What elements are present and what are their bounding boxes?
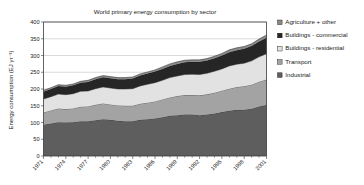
- legend-label-buildings-residential: Buildings - residential: [285, 44, 344, 51]
- legend-label-buildings-commercial: Buildings - commercial: [285, 31, 347, 38]
- legend-swatch-buildings-residential: [278, 46, 283, 51]
- y-tick-label-300: 300: [30, 53, 39, 59]
- y-tick-label-50: 50: [33, 136, 39, 142]
- y-tick-label-100: 100: [30, 120, 39, 126]
- legend-label-transport: Transport: [285, 58, 312, 65]
- y-tick-label-250: 250: [30, 69, 39, 75]
- y-tick-label-350: 350: [30, 36, 39, 42]
- y-tick-label-200: 200: [30, 86, 39, 92]
- legend-swatch-agriculture-other: [278, 20, 283, 25]
- chart-figure: World primary energy consumption by sect…: [0, 0, 364, 185]
- legend-swatch-industrial: [278, 73, 283, 78]
- y-tick-label-150: 150: [30, 103, 39, 109]
- y-axis-label: Energy consumption (EJ yr⁻¹): [8, 50, 14, 129]
- legend-label-industrial: Industrial: [285, 71, 310, 78]
- legend-label-agriculture-other: Agriculture + other: [285, 18, 336, 25]
- legend-swatch-transport: [278, 60, 283, 65]
- legend-swatch-buildings-commercial: [278, 33, 283, 38]
- y-tick-label-400: 400: [30, 19, 39, 25]
- chart-title: World primary energy consumption by sect…: [94, 8, 217, 15]
- energy-consumption-stacked-area-chart: World primary energy consumption by sect…: [0, 0, 364, 185]
